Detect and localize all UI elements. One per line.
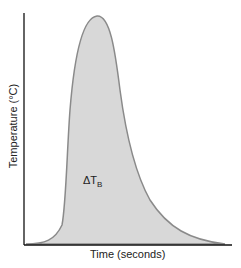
delta-tb-annotation: ΔTB bbox=[83, 174, 102, 189]
y-axis-label: Temperature (°C) bbox=[7, 61, 19, 191]
area-curve bbox=[26, 16, 225, 244]
chart-canvas bbox=[0, 0, 241, 268]
x-axis-label: Time (seconds) bbox=[90, 248, 165, 260]
